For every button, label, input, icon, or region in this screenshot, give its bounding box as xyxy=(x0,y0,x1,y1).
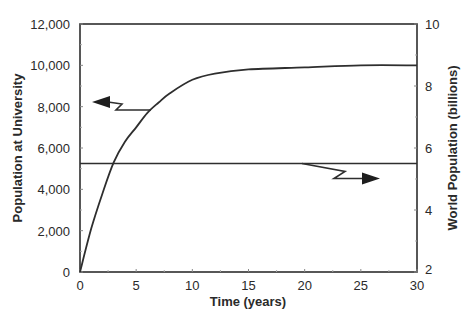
x-tick-label: 0 xyxy=(76,278,83,293)
y-tick-label: 8,000 xyxy=(37,100,70,115)
y2-tick-label: 6 xyxy=(425,141,432,156)
x-tick-label: 10 xyxy=(185,278,199,293)
y-axis-title: Population at University xyxy=(10,73,25,223)
y-tick-label: 12,000 xyxy=(30,17,70,32)
y-tick-label: 4,000 xyxy=(37,182,70,197)
y2-tick-label: 10 xyxy=(425,17,439,32)
axis-arrows xyxy=(92,96,380,185)
x-tick-label: 5 xyxy=(133,278,140,293)
y2-tick-label: 4 xyxy=(425,203,432,218)
y-tick-label: 10,000 xyxy=(30,58,70,73)
x-tick-label: 30 xyxy=(410,278,424,293)
x-tick-label: 25 xyxy=(354,278,368,293)
right-arrowhead-icon xyxy=(362,173,380,185)
left-axis-arrow-line xyxy=(108,102,151,110)
axis-ticks: 05101520253002,0004,0006,0008,00010,0001… xyxy=(30,17,439,293)
plot-area-border xyxy=(80,24,417,272)
y2-tick-label: 8 xyxy=(425,79,432,94)
university-population-line xyxy=(80,65,417,272)
y-tick-label: 6,000 xyxy=(37,141,70,156)
plot-frame xyxy=(80,24,417,272)
y2-axis-title: World Population (billions) xyxy=(445,65,460,230)
chart: 05101520253002,0004,0006,0008,00010,0001… xyxy=(0,0,467,320)
x-axis-title: Time (years) xyxy=(210,294,286,309)
right-axis-arrow-line xyxy=(302,164,364,179)
x-tick-label: 15 xyxy=(241,278,255,293)
left-arrowhead-icon xyxy=(92,96,110,108)
x-tick-label: 20 xyxy=(297,278,311,293)
data-series xyxy=(80,65,417,272)
y-tick-label: 2,000 xyxy=(37,224,70,239)
y-tick-label: 0 xyxy=(63,265,70,280)
y2-tick-label: 2 xyxy=(425,262,432,277)
